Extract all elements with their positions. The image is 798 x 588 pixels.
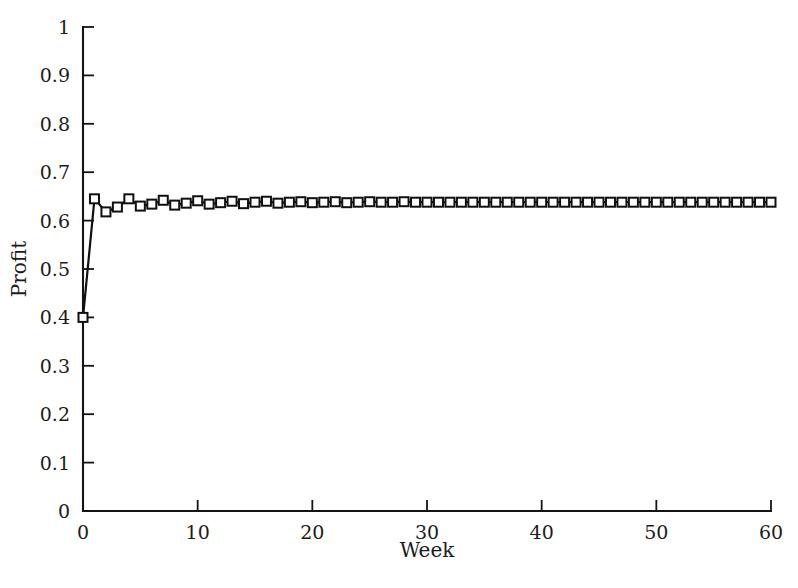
series-marker-point: [79, 313, 88, 322]
series-marker-point: [90, 194, 99, 203]
series-marker-point: [526, 198, 535, 207]
series-marker-point: [331, 197, 340, 206]
series-marker-point: [273, 199, 282, 208]
series-marker-point: [549, 198, 558, 207]
series-marker-point: [170, 201, 179, 210]
x-tick-label: 0: [77, 521, 89, 543]
y-tick-label: 0.8: [40, 113, 70, 135]
series-marker-point: [652, 198, 661, 207]
series-marker-point: [606, 198, 615, 207]
series-marker-point: [251, 198, 260, 207]
series-marker-point: [365, 197, 374, 206]
series-marker-point: [216, 198, 225, 207]
axis-frame: [83, 27, 771, 511]
series-marker-point: [468, 198, 477, 207]
y-tick-label: 0.9: [40, 64, 70, 86]
series-marker-point: [583, 198, 592, 207]
series-marker-point: [101, 207, 110, 216]
y-tick-label: 0.3: [40, 355, 70, 377]
series-marker-point: [686, 198, 695, 207]
series-marker-point: [354, 198, 363, 207]
series-marker-point: [434, 198, 443, 207]
y-tick-label: 0.1: [40, 452, 70, 474]
x-tick-label: 50: [644, 521, 668, 543]
x-tick-label: 20: [300, 521, 324, 543]
series-marker-point: [262, 197, 271, 206]
x-axis-tick-marks: [83, 500, 771, 511]
y-tick-label: 0: [58, 500, 70, 522]
series-marker-point: [560, 198, 569, 207]
series-marker-point: [572, 198, 581, 207]
series-marker-point: [755, 198, 764, 207]
chart-figure: 00.10.20.30.40.50.60.70.80.91 0102030405…: [0, 0, 798, 588]
series-marker-point: [423, 198, 432, 207]
series-marker-point: [411, 198, 420, 207]
series-marker-point: [698, 198, 707, 207]
series-marker-point: [193, 196, 202, 205]
series-marker-point: [205, 200, 214, 209]
data-series-group: [79, 194, 776, 322]
series-marker-point: [239, 199, 248, 208]
series-marker-point: [228, 197, 237, 206]
series-marker-point: [182, 199, 191, 208]
series-marker-point: [721, 198, 730, 207]
y-tick-label: 0.7: [40, 161, 70, 183]
x-tick-label: 60: [759, 521, 783, 543]
series-marker-point: [480, 198, 489, 207]
series-marker-point: [675, 198, 684, 207]
series-marker-point: [319, 198, 328, 207]
series-marker-point: [147, 200, 156, 209]
profit-vs-week-line-chart: 00.10.20.30.40.50.60.70.80.91 0102030405…: [0, 0, 798, 588]
y-tick-label: 0.4: [40, 306, 70, 328]
series-marker-point: [285, 198, 294, 207]
x-axis-title: Week: [400, 538, 456, 562]
series-line-profit: [83, 199, 771, 318]
y-tick-label: 1: [58, 16, 70, 38]
y-axis-title: Profit: [7, 241, 31, 297]
series-marker-point: [491, 198, 500, 207]
series-marker-point: [595, 198, 604, 207]
x-tick-label: 10: [186, 521, 210, 543]
series-marker-point: [342, 198, 351, 207]
y-tick-label: 0.6: [40, 210, 70, 232]
y-axis-tick-labels: 00.10.20.30.40.50.60.70.80.91: [40, 16, 70, 522]
y-tick-label: 0.5: [40, 258, 70, 280]
series-marker-point: [640, 198, 649, 207]
series-marker-point: [537, 198, 546, 207]
series-marker-point: [709, 198, 718, 207]
series-marker-point: [629, 198, 638, 207]
series-marker-point: [503, 198, 512, 207]
series-marker-point: [732, 198, 741, 207]
series-marker-point: [124, 194, 133, 203]
y-tick-label: 0.2: [40, 403, 70, 425]
series-marker-point: [377, 198, 386, 207]
series-marker-point: [744, 198, 753, 207]
series-marker-point: [457, 198, 466, 207]
series-marker-point: [663, 198, 672, 207]
series-marker-point: [445, 198, 454, 207]
series-marker-point: [136, 202, 145, 211]
series-marker-point: [617, 198, 626, 207]
series-marker-point: [308, 198, 317, 207]
series-marker-point: [400, 197, 409, 206]
series-marker-point: [514, 198, 523, 207]
series-marker-point: [388, 198, 397, 207]
series-marker-point: [113, 203, 122, 212]
series-marker-point: [159, 196, 168, 205]
series-marker-point: [296, 197, 305, 206]
series-marker-point: [767, 198, 776, 207]
x-tick-label: 40: [530, 521, 554, 543]
